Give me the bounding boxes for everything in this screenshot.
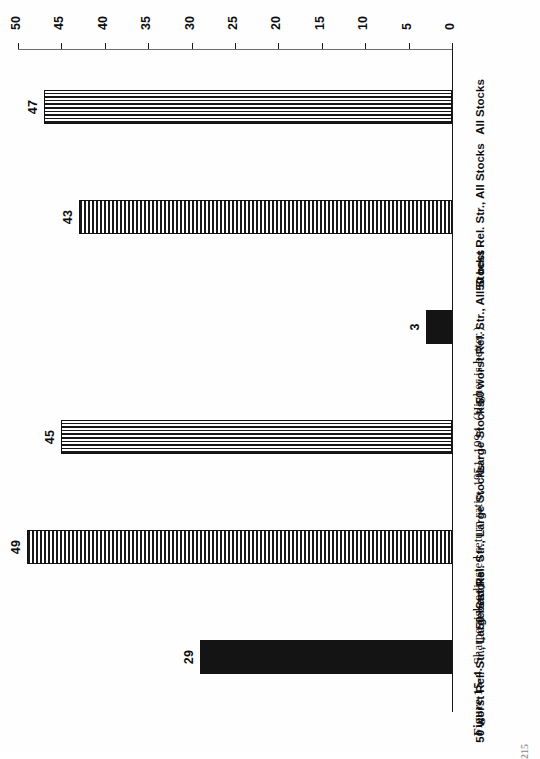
bar-0: 29: [200, 640, 452, 674]
value-tick-label-0: 0: [443, 23, 457, 30]
value-axis-line: [452, 50, 453, 712]
bar-value-label-1: 49: [9, 540, 23, 554]
value-axis-spine: [18, 49, 452, 50]
bar-4: 43: [79, 200, 452, 234]
plot-area: 29494534347: [18, 52, 452, 712]
bar-2: 45: [61, 420, 452, 454]
bar-5: 47: [44, 90, 452, 124]
figure-caption: Figure 15-4. Sharpe risk-adjusted return…: [470, 327, 486, 736]
page-number: 215: [519, 744, 530, 759]
figure-number: Figure 15-4.: [470, 668, 485, 736]
bar-value-label-4: 43: [61, 210, 75, 224]
value-tick-label-15: 15: [313, 16, 327, 30]
value-tick-label-45: 45: [52, 16, 66, 30]
value-tick-label-25: 25: [226, 16, 240, 30]
bar-value-label-2: 45: [43, 430, 57, 444]
category-label-4: 50 best Rel. Str., All Stocks: [474, 143, 486, 290]
bar-3: 3: [426, 310, 452, 344]
value-tick-label-40: 40: [96, 16, 110, 30]
bar-value-label-0: 29: [182, 650, 196, 664]
value-tick-label-50: 50: [9, 16, 23, 30]
value-tick-label-5: 5: [400, 23, 414, 30]
category-label-5: All Stocks: [474, 79, 486, 135]
value-tick-label-35: 35: [139, 16, 153, 30]
bar-value-label-5: 47: [26, 100, 40, 114]
figure-caption-text: Sharpe risk-adjusted return ratio, 1951–…: [470, 327, 485, 665]
value-tick-label-10: 10: [356, 16, 370, 30]
bar-value-label-3: 3: [408, 323, 422, 330]
value-tick-label-30: 30: [183, 16, 197, 30]
value-tick-label-20: 20: [269, 16, 283, 30]
value-tick-0: [452, 43, 453, 50]
bar-1: 49: [27, 530, 452, 564]
